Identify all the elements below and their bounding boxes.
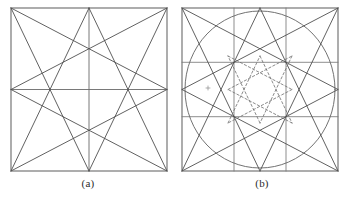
caption-a: (a) (58, 177, 118, 189)
panel-a (11, 8, 167, 171)
figure-board (0, 0, 345, 204)
caption-b: (b) (232, 177, 292, 189)
third-grid-b (182, 8, 338, 171)
inner-dashed-octagram-b (228, 56, 292, 123)
panel-b (182, 8, 338, 171)
outer-square-b (182, 8, 338, 171)
figure-svg (0, 0, 345, 204)
inscribed-circle-b (185, 11, 335, 168)
center-mark-b (206, 86, 210, 90)
octagram-b (182, 8, 338, 171)
